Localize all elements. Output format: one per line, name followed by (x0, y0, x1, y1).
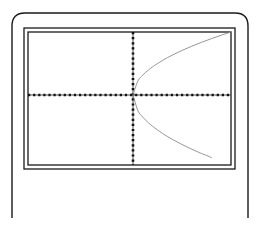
plot-frame-inner-border (28, 32, 231, 165)
coordinate-plot-figure: Four-quadrant coordinate plot inside a s… (0, 0, 265, 226)
figure-container: Four-quadrant coordinate plot inside a s… (0, 0, 265, 226)
